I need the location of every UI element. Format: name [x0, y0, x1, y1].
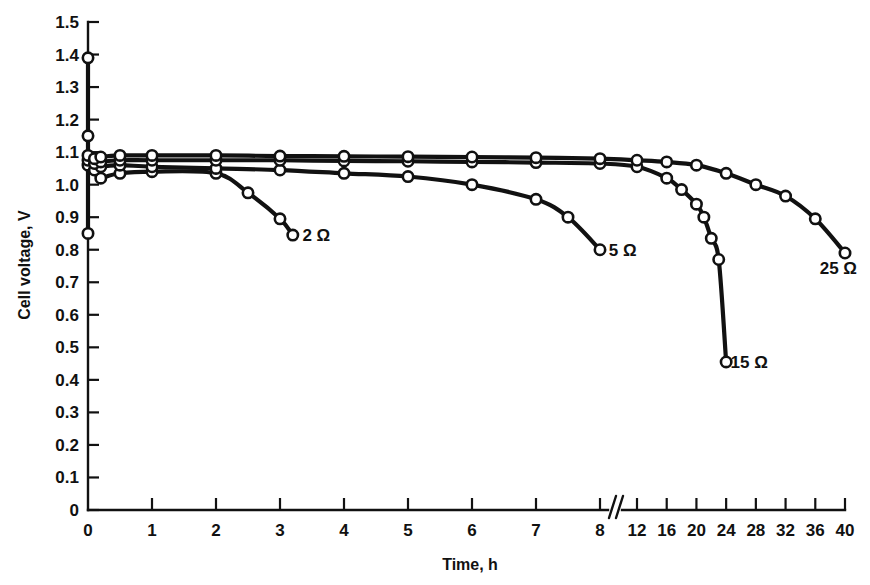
chart-figure: 00.10.20.30.40.50.60.70.80.91.01.11.21.3… [0, 0, 870, 585]
y-tick-label: 0.3 [55, 403, 79, 422]
series-label-15-ohm: 15 Ω [731, 353, 768, 372]
data-point-marker [706, 233, 716, 243]
data-point-marker [83, 53, 93, 63]
y-tick-label: 0.2 [55, 436, 79, 455]
y-tick-label: 0.6 [55, 306, 79, 325]
data-point-marker [751, 179, 761, 189]
data-point-marker [714, 254, 724, 264]
data-point-marker [96, 152, 106, 162]
data-point-marker [531, 152, 541, 162]
x-tick-label: 20 [687, 521, 706, 540]
x-tick-label: 8 [595, 521, 604, 540]
y-tick-label: 1.2 [55, 111, 79, 130]
y-tick-label: 0.4 [55, 371, 79, 390]
x-tick-label: 6 [467, 521, 476, 540]
data-point-marker [662, 173, 672, 183]
chart-background [0, 0, 870, 585]
data-point-marker [288, 230, 298, 240]
y-tick-label: 1.4 [55, 46, 79, 65]
data-point-marker [531, 194, 541, 204]
y-tick-label: 0.7 [55, 273, 79, 292]
y-tick-label: 1.0 [55, 176, 79, 195]
data-point-marker [632, 155, 642, 165]
data-point-marker [115, 150, 125, 160]
data-point-marker [662, 157, 672, 167]
y-tick-label: 0.9 [55, 208, 79, 227]
data-point-marker [275, 151, 285, 161]
data-point-marker [275, 214, 285, 224]
data-point-marker [83, 131, 93, 141]
x-tick-label: 40 [836, 521, 855, 540]
data-point-marker [339, 168, 349, 178]
x-tick-label: 1 [147, 521, 156, 540]
data-point-marker [699, 212, 709, 222]
x-tick-label: 7 [531, 521, 540, 540]
y-tick-label: 1.1 [55, 143, 79, 162]
x-tick-label: 3 [275, 521, 284, 540]
x-tick-label: 4 [339, 521, 349, 540]
data-point-marker [691, 160, 701, 170]
x-tick-label: 24 [717, 521, 736, 540]
data-point-marker [595, 245, 605, 255]
x-tick-label: 28 [746, 521, 765, 540]
data-point-marker [211, 150, 221, 160]
data-point-marker [810, 214, 820, 224]
series-label-5-ohm: 5 Ω [609, 241, 637, 260]
x-tick-label: 36 [806, 521, 825, 540]
x-axis-title: Time, h [442, 556, 498, 573]
y-tick-label: 0.1 [55, 468, 79, 487]
data-point-marker [339, 151, 349, 161]
y-tick-label: 0.5 [55, 338, 79, 357]
data-point-marker [780, 191, 790, 201]
data-point-marker [403, 151, 413, 161]
x-tick-label: 5 [403, 521, 412, 540]
y-tick-label: 0.8 [55, 241, 79, 260]
series-label-25-ohm: 25 Ω [820, 259, 857, 278]
data-point-marker [595, 153, 605, 163]
y-tick-label: 1.3 [55, 78, 79, 97]
data-point-marker [563, 212, 573, 222]
data-point-marker [467, 179, 477, 189]
data-point-marker [691, 199, 701, 209]
discharge-curves-chart: 00.10.20.30.40.50.60.70.80.91.01.11.21.3… [0, 0, 870, 585]
y-tick-label: 1.5 [55, 13, 79, 32]
data-point-marker [721, 168, 731, 178]
data-point-marker [147, 150, 157, 160]
x-tick-label: 12 [628, 521, 647, 540]
data-point-marker [676, 184, 686, 194]
data-point-marker [467, 152, 477, 162]
data-point-marker [83, 228, 93, 238]
y-axis-title: Cell voltage, V [16, 210, 33, 320]
data-point-marker [403, 171, 413, 181]
data-point-marker [243, 188, 253, 198]
data-point-marker [840, 248, 850, 258]
x-tick-label: 32 [776, 521, 795, 540]
x-tick-label: 0 [83, 521, 92, 540]
x-tick-label: 16 [657, 521, 676, 540]
series-label-2-ohm: 2 Ω [302, 226, 330, 245]
y-tick-label: 0 [70, 501, 79, 520]
x-tick-label: 2 [211, 521, 220, 540]
